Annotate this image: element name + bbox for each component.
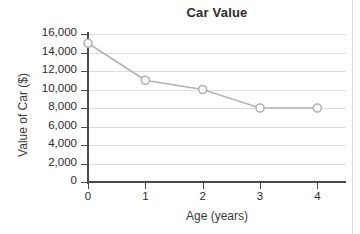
plot-area (88, 34, 346, 182)
y-tick-label: 8,000 (17, 100, 77, 112)
chart-title: Car Value (88, 5, 346, 20)
x-tick-mark (145, 183, 146, 189)
y-tick-label: 14,000 (17, 45, 77, 57)
panel-right-border (352, 0, 353, 234)
x-tick-mark (317, 183, 318, 189)
data-point-marker (84, 39, 92, 47)
x-tick-label: 2 (188, 190, 218, 202)
x-tick-label: 4 (302, 190, 332, 202)
y-tick-label: 2,000 (17, 156, 77, 168)
data-point-marker (141, 76, 149, 84)
x-tick-label: 1 (130, 190, 160, 202)
x-axis-label: Age (years) (88, 209, 346, 223)
chart-screenshot: Car Value Value of Car ($) Age (years) 0… (0, 0, 360, 234)
data-point-marker (313, 104, 321, 112)
data-point-marker (199, 86, 207, 94)
y-tick-label: 0 (17, 174, 77, 186)
y-tick-label: 4,000 (17, 137, 77, 149)
x-tick-mark (260, 183, 261, 189)
y-tick-label: 10,000 (17, 82, 77, 94)
y-tick-label: 6,000 (17, 119, 77, 131)
data-point-marker (256, 104, 264, 112)
series-line (88, 43, 317, 108)
x-tick-label: 3 (245, 190, 275, 202)
y-tick-label: 16,000 (17, 26, 77, 38)
data-series-line (88, 34, 346, 182)
y-tick-label: 12,000 (17, 63, 77, 75)
x-tick-label: 0 (73, 190, 103, 202)
x-tick-mark (203, 183, 204, 189)
